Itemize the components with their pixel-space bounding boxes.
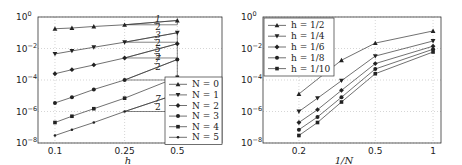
y-tick-label: 10−6 bbox=[241, 105, 262, 117]
legend-label: N = 3 bbox=[192, 111, 219, 121]
legend-label: N = 0 bbox=[192, 79, 219, 89]
y-tick-label: 10−2 bbox=[16, 42, 37, 54]
legend-label: h = 1/4 bbox=[291, 31, 325, 41]
marker-triangle-up-icon bbox=[431, 29, 436, 33]
right-chart: 10010−210−410−610−80.20.511/Nh = 1/2h = … bbox=[241, 10, 441, 165]
marker-square-icon bbox=[92, 107, 96, 111]
marker-triangle-down-icon bbox=[315, 96, 320, 100]
marker-square-icon bbox=[123, 96, 127, 100]
marker-circle-icon bbox=[92, 87, 96, 91]
marker-square-icon bbox=[373, 72, 377, 76]
x-tick-label: 0.2 bbox=[292, 146, 306, 156]
marker-circle-icon bbox=[316, 115, 320, 119]
marker-triangle-down-icon bbox=[373, 54, 378, 58]
marker-triangle-up-icon bbox=[339, 58, 344, 62]
legend-label: N = 1 bbox=[192, 90, 219, 100]
y-tick-label: 10−6 bbox=[16, 105, 37, 117]
y-tick-label: 10−4 bbox=[16, 73, 37, 85]
marker-circle-icon bbox=[123, 78, 127, 82]
marker-star-icon bbox=[93, 121, 96, 124]
y-tick-label: 100 bbox=[16, 10, 32, 22]
marker-circle-icon bbox=[275, 56, 279, 60]
slope-denominator: 2 bbox=[155, 62, 161, 72]
marker-circle-icon bbox=[339, 95, 343, 99]
x-tick-label: 1 bbox=[430, 146, 436, 156]
marker-star-icon bbox=[123, 110, 126, 113]
marker-circle-icon bbox=[373, 67, 377, 71]
marker-triangle-down-icon bbox=[53, 52, 58, 56]
marker-square-icon bbox=[70, 114, 74, 118]
legend: h = 1/2h = 1/4h = 1/6h = 1/8h = 1/10 bbox=[264, 18, 334, 76]
x-tick-label: 0.5 bbox=[170, 146, 184, 156]
legend-label: N = 4 bbox=[192, 122, 219, 132]
marker-diamond-icon bbox=[70, 67, 75, 72]
y-tick-label: 10−2 bbox=[241, 42, 262, 54]
legend-label: N = 5 bbox=[192, 132, 219, 142]
slope-labels: 1232527272 bbox=[154, 14, 161, 112]
legend-label: h = 1/10 bbox=[291, 64, 331, 74]
y-tick-label: 100 bbox=[241, 10, 257, 22]
x-axis-label: 1/N bbox=[335, 155, 355, 165]
slope-denominator: 2 bbox=[155, 102, 161, 112]
marker-triangle-down-icon bbox=[339, 79, 344, 83]
figure: 10010−210−410−610−80.10.250.5hN = 0N = 1… bbox=[0, 0, 462, 165]
marker-circle-icon bbox=[176, 114, 180, 118]
marker-square-icon bbox=[316, 121, 320, 125]
marker-diamond-icon bbox=[297, 120, 302, 125]
legend-label: N = 2 bbox=[192, 101, 219, 111]
marker-circle-icon bbox=[297, 128, 301, 132]
marker-star-icon bbox=[71, 128, 74, 131]
x-tick-label: 0.5 bbox=[368, 146, 382, 156]
marker-star-icon bbox=[177, 136, 180, 139]
marker-square-icon bbox=[176, 125, 180, 129]
marker-triangle-up-icon bbox=[175, 18, 180, 22]
marker-circle-icon bbox=[70, 95, 74, 99]
marker-diamond-icon bbox=[91, 63, 96, 68]
marker-square-icon bbox=[275, 67, 279, 71]
y-tick-label: 10−4 bbox=[241, 73, 262, 85]
marker-square-icon bbox=[431, 50, 435, 54]
marker-triangle-down-icon bbox=[297, 110, 302, 114]
marker-star-icon bbox=[54, 134, 57, 137]
marker-square-icon bbox=[297, 134, 301, 138]
x-axis-label: h bbox=[125, 155, 131, 165]
x-tick-label: 0.1 bbox=[48, 146, 62, 156]
marker-circle-icon bbox=[53, 101, 57, 105]
marker-circle-icon bbox=[175, 58, 179, 62]
legend-label: h = 1/8 bbox=[291, 53, 325, 63]
left-chart: 10010−210−410−610−80.10.250.5hN = 0N = 1… bbox=[16, 10, 222, 165]
legend-label: h = 1/6 bbox=[291, 42, 325, 52]
marker-square-icon bbox=[340, 100, 344, 104]
marker-square-icon bbox=[53, 121, 57, 125]
marker-diamond-icon bbox=[53, 71, 58, 76]
y-tick-label: 10−8 bbox=[16, 136, 37, 148]
legend-label: h = 1/2 bbox=[291, 20, 325, 30]
marker-diamond-icon bbox=[122, 56, 127, 61]
y-tick-label: 10−8 bbox=[241, 136, 262, 148]
legend: N = 0N = 1N = 2N = 3N = 4N = 5 bbox=[165, 77, 222, 145]
